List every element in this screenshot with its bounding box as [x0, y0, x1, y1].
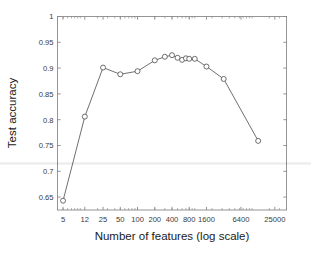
x-tick-label-0: 5 [61, 215, 65, 224]
y-tick-label-3: 0.8 [43, 116, 54, 125]
y-tick-label-1: 0.7 [43, 167, 54, 176]
x-tick-label-4: 100 [131, 215, 144, 224]
y-axis-tick-labels: 0.650.70.750.80.850.90.951 [39, 12, 54, 202]
series-polyline [63, 55, 258, 201]
y-axis-label: Test accuracy [6, 78, 18, 149]
y-tick-label-7: 1 [49, 12, 53, 21]
x-tick-label-9: 6400 [232, 215, 249, 224]
data-line-series [63, 55, 258, 201]
data-point-marker [204, 64, 209, 69]
x-tick-label-6: 400 [166, 215, 179, 224]
data-point-marker [101, 65, 106, 70]
data-point-marker [61, 198, 66, 203]
x-tick-label-3: 50 [116, 215, 124, 224]
x-tick-label-10: 25000 [264, 215, 285, 224]
data-point-marker [221, 76, 226, 81]
data-point-marker [187, 56, 192, 61]
data-point-marker [135, 69, 140, 74]
data-point-marker [256, 138, 261, 143]
x-tick-label-5: 200 [148, 215, 161, 224]
x-tick-label-1: 12 [81, 215, 89, 224]
data-point-marker [82, 114, 87, 119]
plot-frame [58, 17, 287, 211]
x-tick-label-2: 25 [99, 215, 107, 224]
x-tick-label-7: 800 [183, 215, 196, 224]
data-point-marker [152, 58, 157, 63]
x-axis-label: Number of features (log scale) [95, 230, 250, 242]
y-tick-label-6: 0.95 [39, 38, 54, 47]
figure-canvas: 51225501002004008001600640025000 0.650.7… [0, 0, 311, 259]
data-point-marker [118, 72, 123, 77]
data-point-marker [192, 56, 197, 61]
y-tick-label-5: 0.9 [43, 64, 54, 73]
y-tick-label-2: 0.75 [39, 141, 54, 150]
data-point-marker [170, 53, 175, 58]
x-axis-minor-ticks [58, 17, 287, 211]
data-point-marker [162, 54, 167, 59]
x-axis-tick-labels: 51225501002004008001600640025000 [61, 215, 285, 224]
data-point-markers [61, 53, 261, 204]
y-tick-label-4: 0.85 [39, 90, 54, 99]
y-axis-ticks [58, 17, 287, 198]
y-tick-label-0: 0.65 [39, 193, 54, 202]
chart-svg: 51225501002004008001600640025000 0.650.7… [0, 0, 311, 259]
axes-border [58, 17, 287, 211]
x-tick-label-8: 1600 [198, 215, 215, 224]
